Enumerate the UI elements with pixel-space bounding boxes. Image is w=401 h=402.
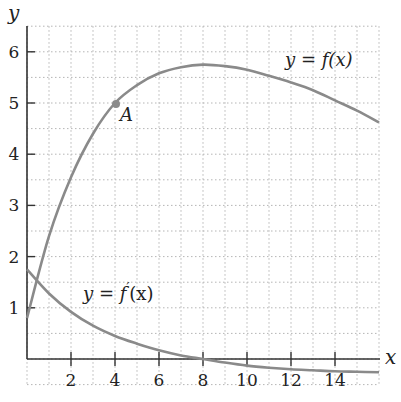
y-tick-label: 2 [9, 247, 20, 267]
ticks: 2468101214123456 [9, 42, 346, 390]
x-tick-label: 10 [236, 370, 258, 390]
x-axis-label: x [385, 345, 396, 369]
grid [27, 26, 379, 384]
x-tick-label: 2 [66, 370, 77, 390]
f-label-lhs: y = [284, 49, 322, 70]
point-a-label: A [118, 104, 133, 125]
y-tick-label: 5 [9, 93, 20, 113]
x-tick-label: 8 [198, 370, 209, 390]
y-tick-label: 4 [9, 144, 20, 164]
chart: 2468101214123456 y x A y = f(x) y = f′(x… [0, 0, 401, 402]
x-tick-label: 6 [154, 370, 165, 390]
f-label-fn: f(x) [320, 49, 353, 70]
y-tick-label: 3 [9, 195, 20, 215]
y-tick-label: 6 [9, 42, 20, 62]
point-a-marker [112, 100, 120, 108]
y-tick-label: 1 [9, 298, 20, 318]
fprime-curve-label: y = f′(x) [82, 280, 154, 304]
f-curve-label: y = f(x) [284, 49, 353, 70]
fp-label-arg: (x) [129, 283, 153, 304]
x-tick-label: 4 [110, 370, 121, 390]
y-axis-label: y [7, 1, 20, 25]
fp-label-lhs: y = [82, 283, 120, 304]
axes [27, 26, 380, 359]
x-tick-label: 14 [324, 370, 346, 390]
x-tick-label: 12 [280, 370, 302, 390]
